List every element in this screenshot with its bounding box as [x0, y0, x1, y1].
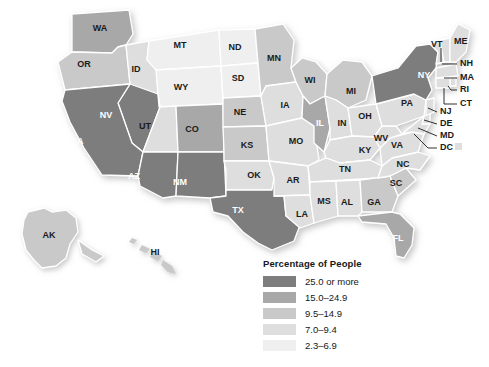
- state-label-SC: SC: [390, 178, 403, 188]
- state-label-LA: LA: [296, 209, 308, 219]
- state-RI[interactable]: [450, 78, 456, 86]
- state-label-VA: VA: [391, 140, 403, 150]
- state-label-NC: NC: [397, 159, 410, 169]
- state-label-OR: OR: [77, 59, 91, 69]
- state-label-TN: TN: [339, 164, 351, 174]
- state-label-WV: WV: [374, 133, 389, 143]
- legend-swatch: [263, 308, 296, 319]
- state-label-AR: AR: [287, 175, 300, 185]
- legend-title: Percentage of People: [263, 258, 409, 269]
- state-label-KY: KY: [359, 145, 372, 155]
- state-label-CO: CO: [185, 124, 199, 134]
- legend-label: 7.0–9.4: [305, 324, 337, 335]
- state-label-MA: MA: [460, 72, 474, 82]
- legend-label: 9.5–14.9: [305, 308, 342, 319]
- state-label-ME: ME: [454, 36, 468, 46]
- state-label-AZ: AZ: [128, 171, 140, 181]
- legend-row[interactable]: 15.0–24.9: [259, 290, 409, 305]
- state-label-AL: AL: [341, 197, 353, 207]
- state-label-NH: NH: [460, 58, 473, 68]
- state-label-SD: SD: [232, 73, 245, 83]
- legend-row[interactable]: 9.5–14.9: [259, 306, 409, 321]
- state-label-UT: UT: [139, 121, 151, 131]
- legend-swatch: [263, 276, 296, 287]
- state-label-NV: NV: [100, 110, 113, 120]
- legend-swatch: [263, 292, 296, 303]
- state-label-NJ: NJ: [440, 106, 452, 116]
- state-label-KS: KS: [241, 140, 254, 150]
- legend-row[interactable]: 25.0 or more: [259, 274, 409, 289]
- state-label-IL: IL: [316, 118, 325, 128]
- state-label-MO: MO: [289, 136, 304, 146]
- state-label-MI: MI: [346, 86, 356, 96]
- legend-label: 15.0–24.9: [305, 292, 347, 303]
- state-label-IA: IA: [281, 100, 291, 110]
- state-label-MT: MT: [174, 40, 187, 50]
- state-label-FL: FL: [393, 233, 404, 243]
- state-label-CA: CA: [71, 136, 84, 146]
- state-AK[interactable]: [22, 208, 104, 268]
- state-CO[interactable]: [176, 104, 224, 152]
- state-label-ID: ID: [132, 64, 142, 74]
- legend-swatch: [263, 324, 296, 335]
- state-label-AK: AK: [43, 230, 56, 240]
- state-WY[interactable]: [156, 66, 223, 107]
- state-label-OH: OH: [358, 111, 372, 121]
- state-label-RI: RI: [460, 84, 469, 94]
- state-label-WI: WI: [305, 75, 316, 85]
- state-FL[interactable]: [358, 212, 414, 258]
- state-label-MD: MD: [440, 130, 454, 140]
- state-label-NE: NE: [234, 107, 247, 117]
- state-label-DE: DE: [440, 118, 453, 128]
- state-label-ND: ND: [229, 42, 242, 52]
- state-label-VT: VT: [431, 39, 443, 49]
- us-map-svg: WAORIDMTWYNVCAUTCOAZNMTXNDSDNEKSOKMNIAMO…: [0, 0, 489, 367]
- state-AZ[interactable]: [138, 152, 178, 198]
- state-NM[interactable]: [176, 152, 226, 198]
- legend-rows: 25.0 or more15.0–24.99.5–14.97.0–9.42.3–…: [259, 274, 409, 353]
- state-KY[interactable]: [324, 136, 380, 163]
- legend-row[interactable]: 2.3–6.9: [259, 338, 409, 353]
- legend-swatch: [263, 340, 296, 351]
- legend-row[interactable]: 7.0–9.4: [259, 322, 409, 337]
- state-label-IN: IN: [338, 118, 347, 128]
- state-NJ[interactable]: [426, 98, 434, 116]
- state-label-TX: TX: [232, 205, 244, 215]
- state-label-NY: NY: [418, 70, 431, 80]
- state-label-CT: CT: [460, 98, 472, 108]
- state-label-WY: WY: [174, 82, 189, 92]
- choropleth-map-figure: WAORIDMTWYNVCAUTCOAZNMTXNDSDNEKSOKMNIAMO…: [0, 0, 489, 367]
- state-label-MS: MS: [317, 196, 331, 206]
- contiguous-us-group: [58, 10, 470, 258]
- dc-marker[interactable]: [455, 143, 462, 150]
- state-label-WA: WA: [93, 23, 108, 33]
- state-label-OK: OK: [247, 170, 261, 180]
- state-label-PA: PA: [401, 98, 413, 108]
- legend-label: 25.0 or more: [305, 276, 359, 287]
- state-label-DC: DC: [440, 142, 453, 152]
- state-label-HI: HI: [151, 247, 160, 257]
- state-MA[interactable]: [436, 64, 458, 78]
- legend-label: 2.3–6.9: [305, 340, 337, 351]
- state-label-GA: GA: [367, 197, 381, 207]
- alaska-group: [22, 208, 104, 268]
- map-legend: Percentage of People 25.0 or more15.0–24…: [259, 258, 409, 354]
- state-label-NM: NM: [173, 177, 187, 187]
- state-label-MN: MN: [267, 53, 281, 63]
